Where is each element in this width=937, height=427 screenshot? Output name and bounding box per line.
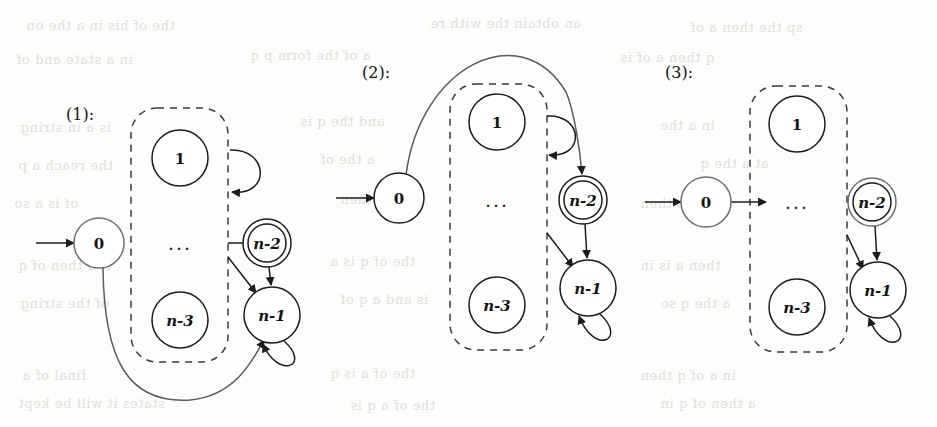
node-1-label: 1: [175, 150, 185, 168]
edge-n-2-to-n-1: [875, 226, 877, 260]
edge-n-2-to-n-1: [585, 224, 587, 258]
node-0-label: 0: [701, 194, 711, 212]
node-n-3-label: n-3: [483, 297, 511, 315]
diagram-canvas: 01n-3n-2n-1...(1):01n-3n-2n-1...(2):01n-…: [0, 0, 937, 427]
edge-loop-top: [230, 150, 260, 192]
node-1-label: 1: [792, 116, 802, 134]
node-n-2-label: n-2: [569, 192, 597, 210]
node-0-label: 0: [394, 190, 404, 208]
node-n-2-label: n-2: [253, 235, 281, 253]
edge-n-1-self-loop: [579, 314, 611, 340]
edge-loop-top: [547, 116, 575, 155]
diagram-caption: (1):: [66, 105, 94, 124]
node-n-1-label: n-1: [574, 280, 602, 298]
node-n-1-label: n-1: [258, 307, 286, 325]
automaton-diagram-3: 01n-3n-2n-1...(3):: [645, 63, 906, 353]
states-ellipsis: ...: [785, 191, 809, 213]
edge-box-to-n-1: [847, 235, 863, 269]
diagram-caption: (2):: [362, 63, 390, 82]
edge-n-1-self-loop: [263, 341, 295, 366]
edge-box-to-n-1: [547, 233, 573, 267]
node-1-label: 1: [492, 114, 502, 132]
states-ellipsis: ...: [485, 189, 509, 211]
node-n-1-label: n-1: [864, 282, 892, 300]
node-n-3-label: n-3: [166, 312, 194, 330]
diagram-caption: (3):: [665, 63, 693, 82]
node-0-label: 0: [94, 235, 104, 253]
figure-automata-diagrams: the of his in a the onan obtain the with…: [0, 0, 937, 427]
node-n-2-label: n-2: [858, 194, 886, 212]
edge-n-1-self-loop: [869, 316, 901, 342]
automaton-diagram-1: 01n-3n-2n-1...(1):: [36, 105, 300, 401]
automaton-diagram-2: 01n-3n-2n-1...(2):: [336, 56, 616, 350]
states-ellipsis: ...: [168, 232, 192, 254]
node-n-3-label: n-3: [783, 299, 811, 317]
edge-n-2-to-n-1: [269, 267, 271, 285]
